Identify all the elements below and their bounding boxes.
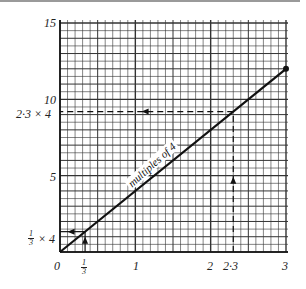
y-tick-third-fraction: 1 3: [28, 230, 34, 247]
arrow-left-icon: [68, 229, 75, 235]
x-tick-2: 2: [207, 260, 213, 272]
y-tick-15: 15: [44, 17, 56, 29]
y-tick-2-3-times-4: 2·3 × 4: [16, 108, 51, 120]
fraction-denominator: 3: [28, 239, 34, 247]
arrow-up-icon: [82, 237, 88, 244]
arrow-up-icon: [230, 177, 236, 184]
x-tick-1: 1: [133, 260, 139, 272]
x-tick-0: 0: [54, 260, 60, 272]
x-tick-third-fraction: 1 3: [81, 259, 87, 276]
x-tick-3: 3: [282, 260, 288, 272]
y-tick-third-times-4: × 4: [38, 233, 55, 245]
end-point-marker: [283, 66, 289, 72]
y-tick-5: 5: [50, 171, 56, 183]
fraction-denominator: 3: [81, 268, 87, 276]
y-tick-10: 10: [44, 94, 56, 106]
x-tick-2-3: 2·3: [223, 260, 238, 272]
